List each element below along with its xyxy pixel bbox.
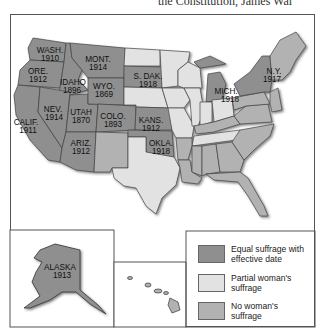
svg-text:1912: 1912 [29,75,48,84]
legend-label: Equal suffrage with effective date [231,245,311,264]
legend-label: Partial woman's suffrage [231,274,311,293]
state-north-dakota [124,48,160,66]
svg-text:1918: 1918 [221,95,240,104]
state-florida [206,172,268,216]
state-michigan-up [194,56,226,68]
svg-text:1911: 1911 [19,126,37,135]
svg-text:1896: 1896 [63,86,82,95]
svg-text:1869: 1869 [95,90,114,99]
state-indiana [200,102,212,126]
state-new-mexico [94,132,128,172]
svg-text:1914: 1914 [89,63,108,72]
state-nebraska [124,87,168,108]
svg-text:1870: 1870 [72,116,91,125]
svg-text:1918: 1918 [139,80,158,89]
svg-text:1912: 1912 [72,147,91,156]
svg-text:1913: 1913 [53,271,72,280]
state-mississippi [192,146,202,176]
svg-text:1912: 1912 [142,124,161,133]
legend-swatch-none [198,302,225,320]
svg-text:1918: 1918 [152,147,171,156]
svg-text:1910: 1910 [41,54,60,63]
state-new-jersey-delaware [270,88,282,112]
legend: Equal suffrage with effective date Parti… [186,231,315,327]
legend-label: No woman's suffrage [231,302,311,321]
hawaii-inset [114,262,186,327]
state-arkansas [176,138,192,160]
svg-text:1893: 1893 [104,120,123,129]
legend-swatch-partial [198,274,225,292]
svg-text:1917: 1917 [263,75,282,84]
legend-item-partial: Partial woman's suffrage [198,274,311,293]
legend-item-equal: Equal suffrage with effective date [198,245,311,264]
legend-swatch-equal [198,245,225,263]
svg-text:1914: 1914 [45,113,64,122]
legend-item-none: No woman's suffrage [198,302,311,321]
